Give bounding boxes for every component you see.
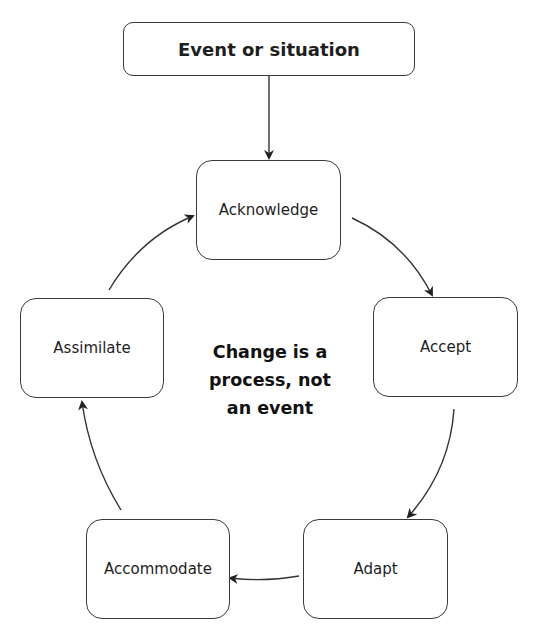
node-label: Assimilate: [53, 339, 130, 357]
node-event-or-situation: Event or situation: [123, 22, 415, 76]
node-label: Accommodate: [104, 560, 212, 578]
arrow-adapt-to-accommodate: [230, 576, 299, 580]
node-label: Event or situation: [178, 39, 360, 60]
node-acknowledge: Acknowledge: [196, 160, 341, 260]
node-label: Adapt: [353, 560, 397, 578]
center-caption-line-1: Change is a: [180, 338, 360, 366]
node-accept: Accept: [373, 297, 518, 397]
center-caption: Change is a process, not an event: [180, 338, 360, 422]
arrow-accept-to-adapt: [408, 409, 454, 517]
node-assimilate: Assimilate: [20, 298, 164, 398]
node-adapt: Adapt: [303, 519, 448, 619]
arrow-accommodate-to-assimilate: [82, 402, 121, 510]
center-caption-line-2: process, not: [180, 366, 360, 394]
arrow-assimilate-to-acknowledge: [109, 216, 193, 290]
node-label: Acknowledge: [219, 201, 319, 219]
node-label: Accept: [420, 338, 471, 356]
center-caption-line-3: an event: [180, 394, 360, 422]
arrow-acknowledge-to-accept: [352, 218, 432, 295]
node-accommodate: Accommodate: [86, 519, 230, 619]
